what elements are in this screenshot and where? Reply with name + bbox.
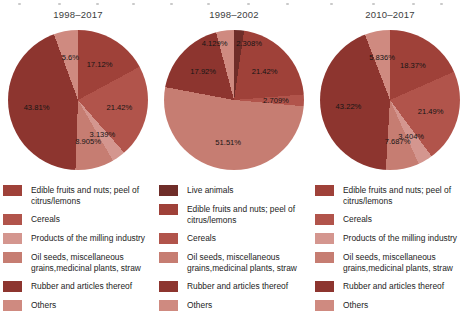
legend-swatch [315,233,334,244]
legend-label: Others [343,300,368,311]
legend-label: Live animals [187,185,234,196]
legend-label: Oil seeds, miscellaneousgrains,medicinal… [187,252,297,273]
pie-slice-label: 17.12% [87,59,113,68]
legend-item: Others [159,300,312,311]
legend-item: Products of the milling industry [315,233,468,244]
pie-slice-label: 21.49% [418,106,444,115]
legend-label: Cereals [31,214,60,225]
legend-swatch [315,252,334,263]
legend-swatch [315,300,334,311]
legend-swatch [159,185,178,196]
legend-label: Rubber and articles thereof [343,281,444,292]
legend-swatch [3,300,22,311]
pie-charts-row: 1998–2017 17.12%21.42%3.139%8.905%43.81%… [0,8,468,170]
legend-label: Others [31,300,56,311]
pie-slice-label: 7.687% [385,137,411,146]
pie-chart-2010-2017: 18.37%21.49%3.404%7.687%43.22%5.836% [320,30,460,170]
legend-1998-2002: Live animals Edible fruits and nuts; pee… [156,185,312,312]
cropped-caption-fragments [0,0,468,7]
legend-item: Cereals [315,214,468,225]
chart-title-1998-2017: 1998–2017 [53,8,102,21]
pie-slice-label: 8.905% [75,136,101,145]
legends-row: Edible fruits and nuts; peel ofcitrus/le… [0,185,468,312]
legend-swatch [315,185,334,196]
pie-slice-label: 5.6% [62,53,79,62]
legend-label: Rubber and articles thereof [31,281,132,292]
legend-2010-2017: Edible fruits and nuts; peel ofcitrus/le… [312,185,468,312]
pie-slice-label: 2.308% [236,38,262,47]
legend-swatch [159,252,178,263]
pie-slice-label: 18.37% [400,60,426,69]
legend-swatch [3,185,22,196]
chart-title-1998-2002: 1998–2002 [209,8,258,21]
figure-canvas: 1998–2017 17.12%21.42%3.139%8.905%43.81%… [0,0,468,312]
legend-label: Oil seeds, miscellaneousgrains,medicinal… [343,252,453,273]
pie-slice-label: 21.42% [106,103,132,112]
legend-swatch [3,252,22,263]
chart-title-2010-2017: 2010–2017 [365,8,414,21]
pie-chart-1998-2017: 17.12%21.42%3.139%8.905%43.81%5.6% [8,30,148,170]
pie-slice-label: 5.836% [369,53,395,62]
legend-swatch [3,233,22,244]
legend-item: Rubber and articles thereof [315,281,468,292]
legend-item: Edible fruits and nuts; peel ofcitrus/le… [159,204,312,225]
legend-item: Edible fruits and nuts; peel ofcitrus/le… [3,185,156,206]
chart-column-3: 2010–2017 18.37%21.49%3.404%7.687%43.22%… [312,8,468,170]
legend-item: Rubber and articles thereof [3,281,156,292]
legend-swatch [315,214,334,225]
pie-chart-1998-2002: 2.308%21.42%2.709%51.51%17.92%4.129% [164,30,304,170]
legend-item: Products of the milling industry [3,233,156,244]
legend-item: Edible fruits and nuts; peel ofcitrus/le… [315,185,468,206]
legend-label: Edible fruits and nuts; peel ofcitrus/le… [31,185,139,206]
legend-label: Edible fruits and nuts; peel ofcitrus/le… [187,204,295,225]
legend-item: Rubber and articles thereof [159,281,312,292]
chart-column-1: 1998–2017 17.12%21.42%3.139%8.905%43.81%… [0,8,156,170]
legend-label: Others [187,300,212,311]
legend-item: Others [315,300,468,311]
legend-label: Oil seeds, miscellaneousgrains,medicinal… [31,252,141,273]
legend-label: Products of the milling industry [343,233,457,244]
legend-item: Oil seeds, miscellaneousgrains,medicinal… [3,252,156,273]
legend-item: Live animals [159,185,312,196]
legend-item: Others [3,300,156,311]
legend-item: Cereals [3,214,156,225]
legend-label: Rubber and articles thereof [187,281,288,292]
legend-label: Cereals [187,233,216,244]
legend-item: Oil seeds, miscellaneousgrains,medicinal… [315,252,468,273]
legend-swatch [159,233,178,244]
legend-1998-2017: Edible fruits and nuts; peel ofcitrus/le… [0,185,156,312]
pie-slice-label: 51.51% [215,137,241,146]
legend-swatch [315,281,334,292]
legend-swatch [159,204,178,215]
legend-swatch [159,281,178,292]
chart-column-2: 1998–2002 2.308%21.42%2.709%51.51%17.92%… [156,8,312,170]
pie-slice-label: 2.709% [263,96,289,105]
legend-label: Cereals [343,214,372,225]
legend-label: Edible fruits and nuts; peel ofcitrus/le… [343,185,451,206]
legend-swatch [3,281,22,292]
pie-slice-label: 17.92% [190,67,216,76]
pie-slice-label: 4.129% [202,39,228,48]
pie-slice-label: 43.22% [336,102,362,111]
legend-item: Oil seeds, miscellaneousgrains,medicinal… [159,252,312,273]
pie-slice-label: 21.42% [252,67,278,76]
legend-item: Cereals [159,233,312,244]
legend-label: Products of the milling industry [31,233,145,244]
pie-slice-label: 43.81% [24,102,50,111]
legend-swatch [3,214,22,225]
legend-swatch [159,300,178,311]
